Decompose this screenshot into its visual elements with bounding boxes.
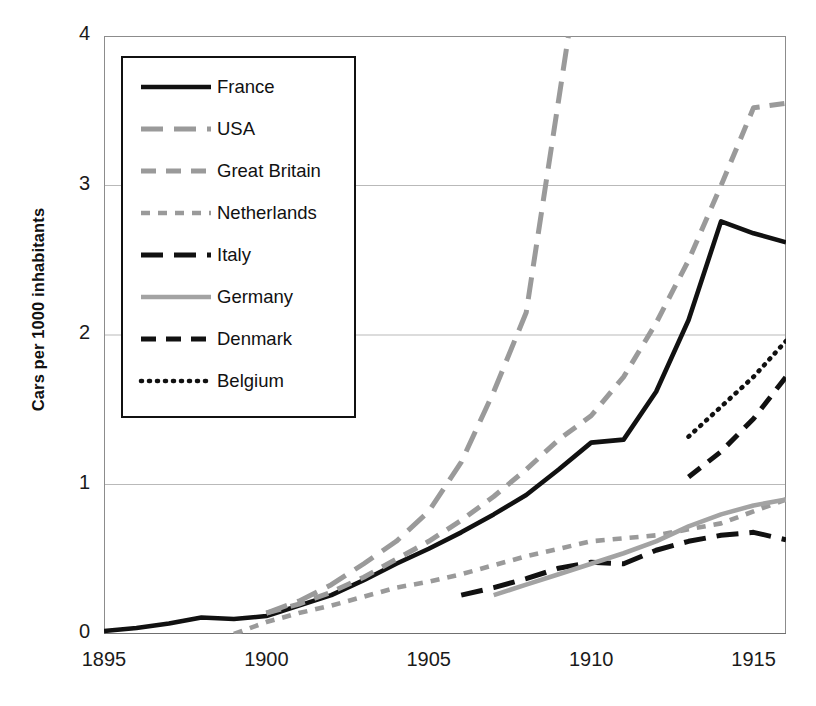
chart-legend: FranceUSAGreat BritainNetherlandsItalyGe… [121, 56, 356, 418]
y-tick-label: 4 [46, 22, 90, 45]
series-line-italy [461, 532, 786, 595]
legend-item-netherlands[interactable]: Netherlands [123, 198, 358, 228]
legend-item-great-britain[interactable]: Great Britain [123, 156, 358, 186]
legend-item-germany[interactable]: Germany [123, 282, 358, 312]
legend-item-belgium[interactable]: Belgium [123, 366, 358, 396]
series-line-belgium [689, 341, 786, 437]
legend-swatch-icon [123, 203, 215, 223]
legend-swatch-icon [123, 371, 215, 391]
legend-swatch-icon [123, 77, 215, 97]
legend-label: Germany [217, 286, 293, 308]
legend-swatch-icon [123, 329, 215, 349]
x-tick-label: 1900 [226, 648, 306, 671]
x-tick-label: 1910 [551, 648, 631, 671]
legend-item-france[interactable]: France [123, 72, 358, 102]
x-tick-label: 1895 [64, 648, 144, 671]
legend-label: Belgium [217, 370, 284, 392]
x-tick-label: 1905 [389, 648, 469, 671]
legend-item-denmark[interactable]: Denmark [123, 324, 358, 354]
legend-item-usa[interactable]: USA [123, 114, 358, 144]
x-tick-label: 1915 [714, 648, 794, 671]
legend-label: France [217, 76, 275, 98]
x-axis-ticks: 18951900190519101915 [0, 648, 816, 688]
chart-figure: Cars per 1000 inhabitants 43210 18951900… [0, 0, 816, 706]
y-tick-label: 1 [46, 471, 90, 494]
legend-swatch-icon [123, 245, 215, 265]
y-axis-ticks: 43210 [38, 0, 90, 706]
series-line-germany [494, 499, 786, 595]
legend-label: Italy [217, 244, 251, 266]
legend-label: Great Britain [217, 160, 321, 182]
y-tick-label: 3 [46, 172, 90, 195]
legend-item-italy[interactable]: Italy [123, 240, 358, 270]
legend-label: Denmark [217, 328, 292, 350]
legend-swatch-icon [123, 119, 215, 139]
y-tick-label: 0 [46, 620, 90, 643]
legend-label: Netherlands [217, 202, 317, 224]
legend-swatch-icon [123, 287, 215, 307]
legend-label: USA [217, 118, 255, 140]
legend-swatch-icon [123, 161, 215, 181]
y-tick-label: 2 [46, 321, 90, 344]
